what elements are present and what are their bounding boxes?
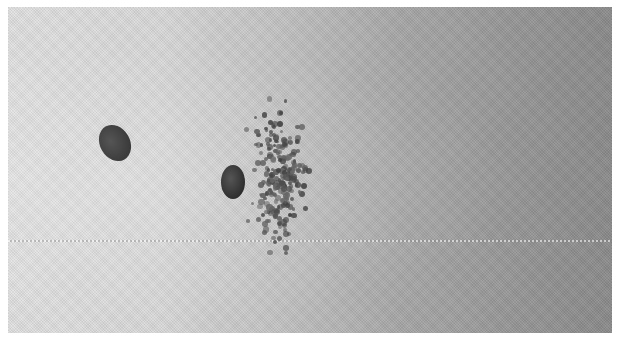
debris-particle	[277, 205, 280, 208]
debris-particle	[265, 166, 270, 171]
debris-particle	[268, 155, 272, 159]
debris-particle	[291, 174, 296, 179]
debris-particle	[257, 204, 262, 209]
debris-particle	[298, 190, 301, 193]
photograph	[8, 7, 612, 333]
debris-particle	[273, 230, 277, 234]
debris-particle	[267, 96, 272, 101]
debris-particle	[276, 168, 281, 173]
debris-particle	[296, 149, 300, 153]
debris-particle	[275, 140, 279, 144]
debris-particle	[256, 217, 261, 222]
debris-particle	[259, 151, 263, 155]
debris-particle	[271, 236, 275, 240]
debris-particle	[274, 199, 278, 203]
debris-particle	[283, 217, 289, 223]
debris-particle	[278, 158, 282, 162]
debris-particle	[284, 99, 288, 103]
debris-particle	[246, 219, 250, 223]
debris-particle	[254, 129, 259, 134]
debris-particle	[290, 197, 294, 201]
debris-particle	[269, 138, 273, 142]
debris-particle	[300, 163, 305, 168]
debris-particle	[251, 202, 254, 205]
debris-particle	[295, 182, 301, 188]
debris-particle	[277, 221, 282, 226]
debris-particle	[295, 139, 300, 144]
debris-particle	[265, 219, 269, 223]
debris-particle	[285, 192, 291, 198]
debris-particle	[254, 143, 257, 146]
debris-particle	[271, 123, 276, 128]
debris-particle	[303, 206, 308, 211]
debris-particle	[282, 142, 287, 147]
debris-particle	[288, 213, 292, 217]
debris-particle	[289, 184, 293, 188]
scan-line-artifact	[8, 240, 612, 242]
debris-particle	[262, 112, 268, 118]
debris-particle	[273, 187, 277, 191]
debris-particle	[288, 136, 292, 140]
debris-particle	[262, 230, 267, 235]
debris-particle	[306, 168, 312, 174]
debris-particle	[266, 204, 272, 210]
debris-particle	[267, 250, 272, 255]
debris-particle	[283, 201, 288, 206]
debris-particle	[279, 180, 285, 186]
debris-particle	[288, 140, 293, 145]
debris-particle	[301, 170, 305, 174]
debris-particle	[283, 245, 288, 250]
debris-particle	[292, 207, 296, 211]
debris-particle	[266, 142, 270, 146]
projectile-center	[221, 165, 245, 199]
debris-particle	[285, 177, 289, 181]
debris-particle	[290, 170, 295, 175]
